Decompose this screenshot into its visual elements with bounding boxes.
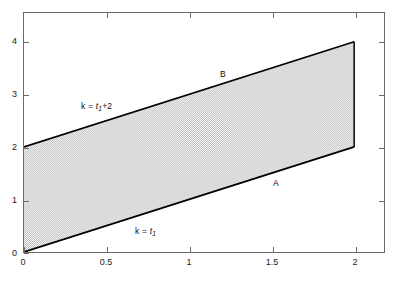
- lower-label-k: k: [135, 226, 139, 236]
- upper-label-k: k: [81, 101, 85, 111]
- y-tick-right-2: [379, 148, 384, 149]
- shaded-region: [24, 42, 354, 252]
- figure-canvas: k = t1+2 k = t1 B A 0 0.5 1 1.5 2 0 1 2 …: [0, 0, 398, 284]
- y-tick-1: [24, 201, 29, 202]
- y-axis-label-3: 3: [6, 90, 17, 99]
- x-axis-label-1: 1: [186, 258, 191, 267]
- x-axis-label-0-5: 0.5: [100, 258, 113, 267]
- x-tick-0: [24, 247, 25, 252]
- x-tick-top-1-5: [273, 13, 274, 18]
- x-tick-0-5: [107, 247, 108, 252]
- y-axis-label-1: 1: [6, 196, 17, 205]
- upper-line-equation-label: k = t1+2: [81, 102, 112, 111]
- upper-label-suffix: +2: [102, 101, 112, 111]
- x-tick-top-1: [190, 13, 191, 18]
- plot-drawing-area: [24, 13, 384, 252]
- y-tick-0: [24, 253, 29, 254]
- y-axis-label-2: 2: [6, 143, 17, 152]
- y-tick-right-1: [379, 201, 384, 202]
- y-tick-3: [24, 95, 29, 96]
- upper-label-equals: =: [88, 101, 93, 111]
- x-tick-1: [190, 247, 191, 252]
- y-axis-label-4: 4: [6, 37, 17, 46]
- y-tick-right-3: [379, 95, 384, 96]
- plot-frame: k = t1+2 k = t1 B A: [23, 12, 385, 253]
- region-marker-b: B: [220, 70, 226, 79]
- x-axis-label-0: 0: [20, 258, 25, 267]
- x-tick-1-5: [273, 247, 274, 252]
- lower-line-equation-label: k = t1: [135, 227, 156, 236]
- y-tick-4: [24, 42, 29, 43]
- upper-label-subscript: 1: [98, 105, 102, 112]
- region-marker-a: A: [273, 179, 279, 188]
- y-tick-2: [24, 148, 29, 149]
- x-axis-label-1-5: 1.5: [266, 258, 279, 267]
- x-tick-2: [356, 247, 357, 252]
- lower-label-subscript: 1: [152, 230, 156, 237]
- x-axis-label-2: 2: [352, 258, 357, 267]
- x-tick-top-2: [356, 13, 357, 18]
- y-tick-right-4: [379, 42, 384, 43]
- y-axis-label-0: 0: [6, 249, 17, 258]
- lower-label-equals: =: [142, 226, 147, 236]
- x-tick-top-0-5: [107, 13, 108, 18]
